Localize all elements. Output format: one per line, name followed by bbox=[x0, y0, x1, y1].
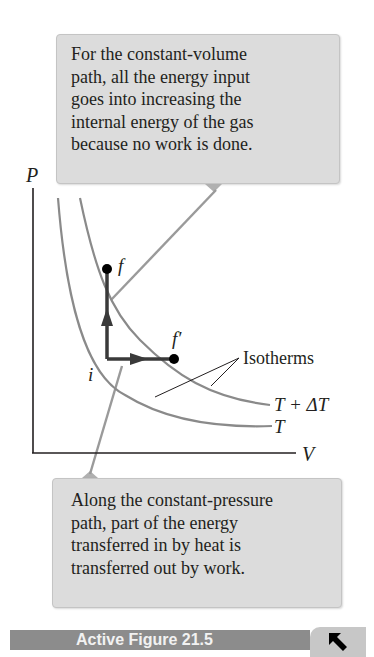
active-figure-button[interactable] bbox=[310, 627, 366, 657]
point-i-label: i bbox=[88, 364, 93, 385]
isotherm-t-label: T bbox=[274, 416, 286, 437]
isotherms-pointer bbox=[211, 358, 239, 386]
point-f-prime bbox=[169, 354, 179, 364]
top-leader-line bbox=[111, 190, 216, 300]
active-figure-label: Active Figure 21.5 bbox=[76, 630, 213, 650]
arrow-up-left-icon bbox=[327, 631, 349, 653]
callout-line: path, part of the energy bbox=[71, 512, 329, 535]
right-arrow-icon bbox=[130, 353, 148, 365]
isotherms-label: Isotherms bbox=[243, 348, 314, 368]
point-f bbox=[102, 264, 112, 274]
y-axis-label: P bbox=[25, 164, 38, 186]
callout-line: Along the constant-pressure bbox=[71, 489, 329, 512]
callout-line: transferred in by heat is bbox=[71, 534, 329, 557]
callout-line: transferred out by work. bbox=[71, 557, 329, 580]
isotherm-t-plus-dt-label: T + ΔT bbox=[274, 394, 330, 415]
constant-pressure-callout: Along the constant-pressure path, part o… bbox=[52, 478, 342, 608]
point-f-label: f bbox=[118, 255, 126, 276]
point-f-prime-label: f′ bbox=[172, 328, 182, 349]
up-arrow-icon bbox=[101, 308, 113, 326]
x-axis-label: V bbox=[302, 443, 317, 465]
bottom-leader-line bbox=[90, 366, 122, 474]
top-callout-pointer bbox=[205, 184, 222, 192]
